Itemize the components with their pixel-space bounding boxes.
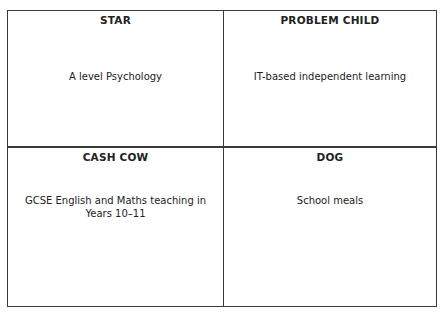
quadrant-text: GCSE English and Maths teaching in Years…: [8, 194, 223, 220]
quadrant-text: A level Psychology: [8, 70, 223, 83]
quadrant-dog: DOG School meals: [224, 148, 436, 306]
quadrant-title: PROBLEM CHILD: [224, 14, 436, 26]
quadrant-title: DOG: [224, 151, 436, 163]
quadrant-star: STAR A level Psychology: [8, 11, 223, 146]
quadrant-title: CASH COW: [8, 151, 223, 163]
quadrant-text: IT-based independent learning: [224, 70, 436, 83]
quadrant-title: STAR: [8, 14, 223, 26]
quadrant-problem-child: PROBLEM CHILD IT-based independent learn…: [224, 11, 436, 146]
quadrant-text: School meals: [224, 194, 436, 207]
bcg-matrix: STAR A level Psychology PROBLEM CHILD IT…: [7, 10, 437, 307]
quadrant-cash-cow: CASH COW GCSE English and Maths teaching…: [8, 148, 223, 306]
